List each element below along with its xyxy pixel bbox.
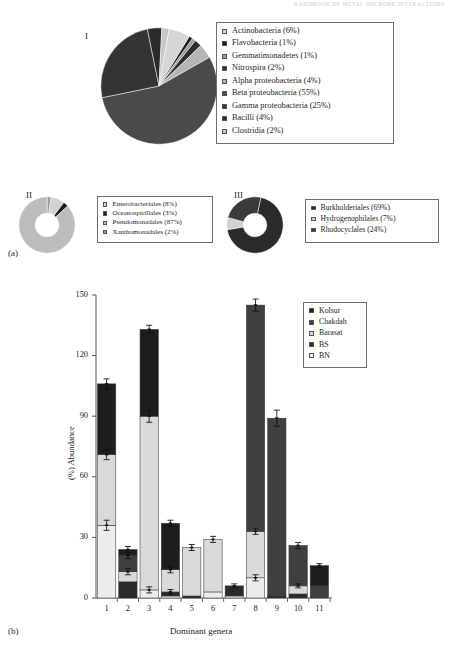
bar-segment [97, 525, 115, 598]
y-axis-tick-label: 0 [62, 593, 88, 602]
bar-legend-item: BS [309, 341, 360, 349]
bar-segment [246, 531, 264, 577]
bar-segment [119, 582, 137, 598]
legend-swatch-icon [309, 331, 314, 336]
bar-legend-item: Chakdah [309, 318, 360, 326]
x-axis-tick-label: 10 [288, 604, 308, 613]
bar-segment [161, 596, 179, 598]
x-axis-tick-label: 9 [267, 604, 287, 613]
bar-segment [97, 384, 115, 455]
x-axis-tick-label: 1 [97, 604, 117, 613]
bar-chart-legend: KolsurChakdahBarasatBSBN [303, 302, 367, 368]
bar-segment [140, 329, 158, 416]
x-axis-tick-label: 4 [160, 604, 180, 613]
bar-chart [0, 0, 451, 657]
y-axis-tick-label: 60 [62, 471, 88, 480]
figure-page: HANDBOOK OF METAL-MICROBE INTERACTIONS I… [0, 0, 451, 657]
x-axis-tick-label: 6 [203, 604, 223, 613]
bar-segment [225, 596, 243, 598]
bar-segment [268, 418, 286, 596]
bar-legend-label: Chakdah [319, 318, 347, 326]
x-axis-tick-label: 2 [118, 604, 138, 613]
bar-segment [204, 539, 222, 592]
y-axis-tick-label: 30 [62, 532, 88, 541]
bar-segment [310, 586, 328, 598]
bar-segment [268, 596, 286, 598]
x-axis-tick-label: 8 [246, 604, 266, 613]
legend-swatch-icon [309, 353, 314, 358]
bar-legend-item: BN [309, 352, 360, 360]
panel-b-label: (b) [8, 626, 19, 636]
bar-segment [289, 594, 307, 598]
legend-swatch-icon [309, 342, 314, 347]
bar-legend-label: BS [319, 341, 329, 349]
x-axis-tick-label: 11 [309, 604, 329, 613]
legend-swatch-icon [309, 308, 314, 313]
x-axis-title: Dominant genera [170, 626, 232, 636]
bar-segment [97, 455, 115, 526]
y-axis-tick-label: 150 [62, 290, 88, 299]
bar-segment [161, 523, 179, 569]
bar-legend-label: Kolsur [319, 307, 340, 315]
bar-legend-label: Barasat [319, 329, 342, 337]
bar-segment [183, 596, 201, 598]
bar-segment [140, 416, 158, 590]
y-axis-tick-label: 90 [62, 411, 88, 420]
x-axis-tick-label: 7 [224, 604, 244, 613]
bar-legend-label: BN [319, 352, 330, 360]
legend-swatch-icon [309, 320, 314, 325]
x-axis-tick-label: 3 [139, 604, 159, 613]
y-axis-tick-label: 120 [62, 350, 88, 359]
bar-segment [246, 305, 264, 531]
bar-segment [289, 545, 307, 585]
bar-segment [183, 548, 201, 596]
bar-segment [310, 566, 328, 586]
bar-segment [204, 592, 222, 598]
x-axis-tick-label: 5 [182, 604, 202, 613]
bar-legend-item: Kolsur [309, 307, 360, 315]
bar-legend-item: Barasat [309, 329, 360, 337]
